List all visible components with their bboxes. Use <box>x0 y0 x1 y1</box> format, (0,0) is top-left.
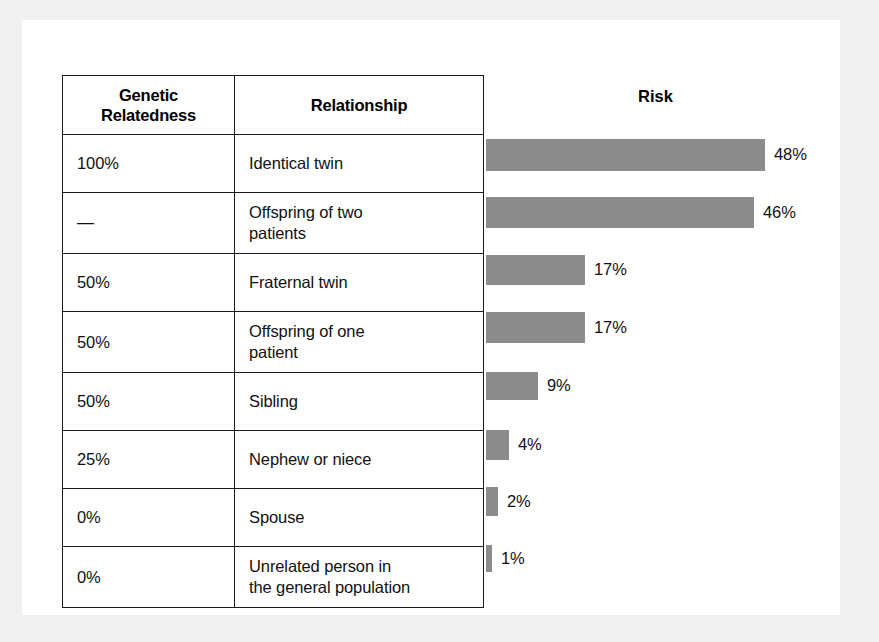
relationship-line-1: Sibling <box>249 391 483 412</box>
risk-bar-label: 48% <box>774 145 807 164</box>
cell-genetic-relatedness: — <box>63 193 235 254</box>
table-row: 25% Nephew or niece <box>63 431 484 489</box>
relationship-line-2: the general population <box>249 577 483 598</box>
relationship-line-1: Nephew or niece <box>249 449 483 470</box>
risk-bar <box>486 139 765 171</box>
risk-bar <box>486 312 585 343</box>
relationship-line-1: Identical twin <box>249 153 483 174</box>
cell-genetic-relatedness: 50% <box>63 312 235 373</box>
cell-genetic-relatedness: 50% <box>63 373 235 431</box>
risk-bar <box>486 430 509 460</box>
relationship-line-1: Unrelated person in <box>249 556 483 577</box>
table-row: 100% Identical twin <box>63 135 484 193</box>
relationship-line-1: Offspring of two <box>249 202 483 223</box>
cell-relationship: Nephew or niece <box>235 431 484 489</box>
cell-relationship: Offspring of two patients <box>235 193 484 254</box>
table-row: 50% Fraternal twin <box>63 254 484 312</box>
cell-genetic-relatedness: 0% <box>63 547 235 608</box>
column-header-relationship: Relationship <box>235 76 484 135</box>
scanned-page-frame: Genetic Relatedness Relationship 100% Id… <box>0 0 879 642</box>
relationship-line-1: Offspring of one <box>249 321 483 342</box>
risk-bar <box>486 255 585 285</box>
cell-relationship: Fraternal twin <box>235 254 484 312</box>
cell-relationship: Unrelated person in the general populati… <box>235 547 484 608</box>
table-row: 0% Unrelated person in the general popul… <box>63 547 484 608</box>
table-header-row: Genetic Relatedness Relationship <box>63 76 484 135</box>
header-line-1: Genetic <box>63 85 234 105</box>
table-row: 0% Spouse <box>63 489 484 547</box>
cell-genetic-relatedness: 100% <box>63 135 235 193</box>
header-line-2: Relatedness <box>63 105 234 125</box>
chart-title: Risk <box>483 87 828 106</box>
risk-bar-label: 9% <box>547 376 571 395</box>
risk-bar-label: 1% <box>501 549 525 568</box>
cell-genetic-relatedness: 50% <box>63 254 235 312</box>
relationship-line-2: patients <box>249 223 483 244</box>
relationship-line-1: Spouse <box>249 507 483 528</box>
risk-bar-chart: Risk 48%46%17%17%9%4%2%1% <box>483 75 873 595</box>
cell-relationship: Sibling <box>235 373 484 431</box>
risk-bar-label: 17% <box>594 318 627 337</box>
header-line-1: Relationship <box>235 95 483 115</box>
risk-bar-label: 2% <box>507 492 531 511</box>
risk-bar <box>486 487 498 516</box>
cell-genetic-relatedness: 25% <box>63 431 235 489</box>
risk-bar-label: 46% <box>763 203 796 222</box>
relationship-line-2: patient <box>249 342 483 363</box>
table-body: 100% Identical twin — Offspring of two p… <box>63 135 484 608</box>
table-row: 50% Offspring of one patient <box>63 312 484 373</box>
cell-relationship: Identical twin <box>235 135 484 193</box>
genetic-risk-table: Genetic Relatedness Relationship 100% Id… <box>62 75 484 608</box>
column-header-genetic-relatedness: Genetic Relatedness <box>63 76 235 135</box>
risk-bar-label: 17% <box>594 260 627 279</box>
risk-bar <box>486 372 538 400</box>
risk-bar-label: 4% <box>518 435 542 454</box>
cell-genetic-relatedness: 0% <box>63 489 235 547</box>
table-row: — Offspring of two patients <box>63 193 484 254</box>
cell-relationship: Spouse <box>235 489 484 547</box>
relationship-line-1: Fraternal twin <box>249 272 483 293</box>
table-row: 50% Sibling <box>63 373 484 431</box>
risk-figure: Genetic Relatedness Relationship 100% Id… <box>0 0 879 642</box>
risk-bar <box>486 545 492 572</box>
cell-relationship: Offspring of one patient <box>235 312 484 373</box>
risk-bar <box>486 197 754 228</box>
